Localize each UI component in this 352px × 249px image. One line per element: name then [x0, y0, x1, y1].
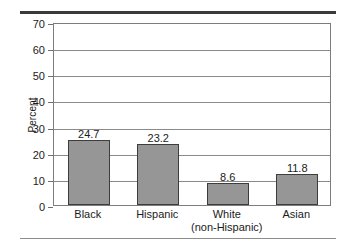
x-category-label-line: Asian — [282, 208, 310, 220]
bar — [68, 140, 110, 205]
y-tick-mark — [48, 102, 53, 103]
bar — [137, 144, 179, 205]
x-category-label-line: Black — [74, 208, 101, 220]
x-category-label: White(non-Hispanic) — [191, 208, 263, 234]
y-tick-mark — [48, 129, 53, 130]
y-tick-mark — [48, 50, 53, 51]
y-tick-label: 20 — [33, 149, 45, 161]
x-category-label: Hispanic — [136, 208, 178, 221]
bar-value-label: 23.2 — [148, 132, 169, 146]
y-tick-mark — [48, 24, 53, 25]
x-axis-category-labels: BlackHispanicWhite(non-Hispanic)Asian — [53, 208, 331, 246]
bar-value-label: 24.7 — [78, 128, 99, 142]
bar-series: 24.723.28.611.8 — [54, 24, 330, 205]
top-divider-rule — [20, 11, 336, 14]
y-tick-label: 70 — [33, 18, 45, 30]
x-category-label: Black — [74, 208, 101, 221]
bar-value-label: 11.8 — [287, 162, 308, 176]
x-category-label-line: Hispanic — [136, 208, 178, 220]
y-tick-label: 60 — [33, 44, 45, 56]
y-tick-mark — [48, 155, 53, 156]
bar — [276, 174, 318, 205]
x-category-label-line: White — [213, 208, 241, 220]
y-tick-mark — [48, 181, 53, 182]
x-category-label-line: (non-Hispanic) — [191, 221, 263, 234]
y-tick-label: 10 — [33, 175, 45, 187]
y-tick-mark — [48, 76, 53, 77]
x-category-label: Asian — [282, 208, 310, 221]
y-tick-label: 50 — [33, 70, 45, 82]
chart-figure: 706050403020100 Percent 24.723.28.611.8 … — [0, 0, 352, 249]
y-axis-title: Percent — [27, 97, 38, 132]
bar-value-label: 8.6 — [220, 171, 235, 185]
plot-area: 706050403020100 Percent 24.723.28.611.8 — [53, 23, 331, 206]
bottom-divider-rule — [20, 238, 336, 239]
bar — [207, 183, 249, 205]
y-tick-label: 0 — [39, 201, 45, 213]
